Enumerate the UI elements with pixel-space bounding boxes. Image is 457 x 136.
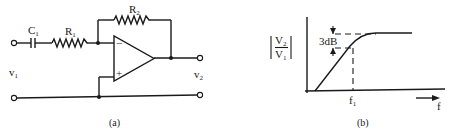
figure-canvas: − + C1 R1 R2 v1 v2 (a) <box>0 0 457 136</box>
input-terminal <box>11 40 16 45</box>
capacitor-c1-icon <box>31 38 35 48</box>
x-axis <box>305 89 445 91</box>
ground-terminal-left <box>11 95 16 100</box>
output-junction-dot <box>169 56 173 60</box>
caption-a: (a) <box>109 117 120 129</box>
caption-b: (b) <box>357 117 369 129</box>
output-terminal <box>197 55 202 60</box>
resistor-r1-icon <box>52 39 88 47</box>
label-v1: v1 <box>9 66 19 80</box>
noninverting-input-sign: + <box>116 67 122 79</box>
annotation-3db: 3dB <box>319 35 337 47</box>
circuit-diagram: − + C1 R1 R2 v1 v2 (a) <box>9 3 204 129</box>
svg-text:V2: V2 <box>275 34 287 48</box>
label-c1: C1 <box>28 24 39 38</box>
inverting-input-sign: − <box>116 37 122 49</box>
label-v2: v2 <box>194 68 204 82</box>
svg-text:V1: V1 <box>275 48 287 62</box>
x-axis-label-f: f <box>437 100 441 112</box>
tick-label-f1: f1 <box>349 94 357 108</box>
resistor-r2-icon <box>114 16 151 24</box>
frequency-response-plot: 3dB V2 V1 f1 f (b) <box>271 17 445 129</box>
y-axis-label: V2 V1 <box>271 34 291 62</box>
label-r1: R1 <box>65 25 76 39</box>
label-r2: R2 <box>129 3 140 17</box>
ground-terminal-right <box>197 92 202 97</box>
